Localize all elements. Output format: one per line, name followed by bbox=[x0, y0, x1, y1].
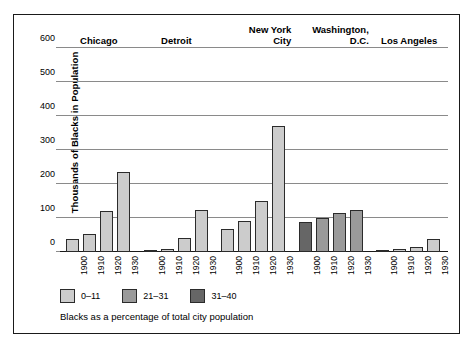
city-header: Los Angeles bbox=[370, 35, 448, 46]
bar bbox=[195, 210, 208, 253]
bar bbox=[376, 250, 389, 252]
x-axis-year-label: 1900 bbox=[234, 256, 244, 290]
bar bbox=[66, 239, 79, 252]
chart-legend: 0–1121–3131–40 bbox=[60, 289, 258, 303]
bar bbox=[299, 222, 312, 252]
legend-swatch bbox=[60, 289, 75, 303]
city-header: Detroit bbox=[138, 35, 216, 46]
chart-figure: Thousands of Blacks in Population 010020… bbox=[13, 14, 460, 334]
y-axis-tick-label: 500 bbox=[40, 67, 55, 77]
bar bbox=[117, 172, 130, 252]
x-axis-year-label: 1900 bbox=[312, 256, 322, 290]
x-axis-year-label: 1930 bbox=[130, 256, 140, 290]
bar bbox=[316, 218, 329, 252]
bar-group: 1900191019201930 bbox=[370, 48, 448, 252]
bar bbox=[350, 210, 363, 253]
y-axis-tick-label: 400 bbox=[40, 101, 55, 111]
bar bbox=[238, 221, 251, 252]
y-axis-tick-label: 600 bbox=[40, 33, 55, 43]
x-axis-year-label: 1910 bbox=[329, 256, 339, 290]
x-axis-year-label: 1910 bbox=[174, 256, 184, 290]
city-header: Chicago bbox=[60, 35, 138, 46]
legend-item: 31–40 bbox=[190, 289, 236, 303]
legend-item: 0–11 bbox=[60, 289, 100, 303]
x-axis-year-label: 1930 bbox=[363, 256, 373, 290]
bar bbox=[255, 201, 268, 252]
y-axis-tick-label: 200 bbox=[40, 169, 55, 179]
bar bbox=[161, 249, 174, 252]
legend-item: 21–31 bbox=[122, 289, 168, 303]
legend-label: 0–11 bbox=[81, 291, 100, 301]
bar-group: 1900191019201930 bbox=[293, 48, 371, 252]
bar bbox=[221, 229, 234, 252]
city-header: New York City bbox=[215, 24, 291, 46]
bar bbox=[144, 250, 157, 252]
legend-label: 31–40 bbox=[211, 291, 236, 301]
x-axis-year-label: 1920 bbox=[423, 256, 433, 290]
x-axis-year-label: 1920 bbox=[191, 256, 201, 290]
bar bbox=[333, 213, 346, 252]
bar bbox=[178, 238, 191, 252]
bar bbox=[100, 211, 113, 252]
bar-group: 1900191019201930 bbox=[138, 48, 216, 252]
x-axis-year-label: 1900 bbox=[389, 256, 399, 290]
y-axis-tick-label: 300 bbox=[40, 135, 55, 145]
x-axis-year-label: 1930 bbox=[285, 256, 295, 290]
bar bbox=[83, 234, 96, 252]
x-axis-year-label: 1920 bbox=[113, 256, 123, 290]
y-axis-tick-label: 100 bbox=[40, 203, 55, 213]
bar bbox=[427, 239, 440, 252]
bar bbox=[410, 247, 423, 252]
bar-group: 1900191019201930 bbox=[60, 48, 138, 252]
x-axis-year-label: 1910 bbox=[96, 256, 106, 290]
bar bbox=[272, 126, 285, 252]
legend-label: 21–31 bbox=[143, 291, 168, 301]
x-axis-year-label: 1910 bbox=[406, 256, 416, 290]
x-axis-year-label: 1900 bbox=[157, 256, 167, 290]
bar-group: 1900191019201930 bbox=[215, 48, 293, 252]
city-header: Washington, D.C. bbox=[293, 24, 369, 46]
legend-swatch bbox=[122, 289, 137, 303]
y-axis-tick-label: 0 bbox=[50, 237, 55, 247]
x-axis-year-label: 1930 bbox=[440, 256, 450, 290]
bar bbox=[393, 249, 406, 252]
x-axis-year-label: 1920 bbox=[268, 256, 278, 290]
plot-area: 0100200300400500600190019101920193019001… bbox=[60, 48, 448, 252]
chart-caption: Blacks as a percentage of total city pop… bbox=[60, 311, 253, 322]
x-axis-year-label: 1900 bbox=[79, 256, 89, 290]
x-axis-year-label: 1910 bbox=[251, 256, 261, 290]
x-axis-year-label: 1930 bbox=[208, 256, 218, 290]
x-axis-year-label: 1920 bbox=[346, 256, 356, 290]
legend-swatch bbox=[190, 289, 205, 303]
